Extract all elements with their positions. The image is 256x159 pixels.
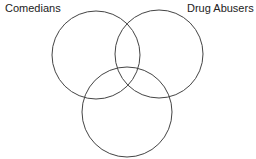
venn-diagram	[0, 0, 256, 159]
circle-drug-abusers	[115, 10, 203, 98]
circle-unlabeled	[82, 67, 172, 157]
